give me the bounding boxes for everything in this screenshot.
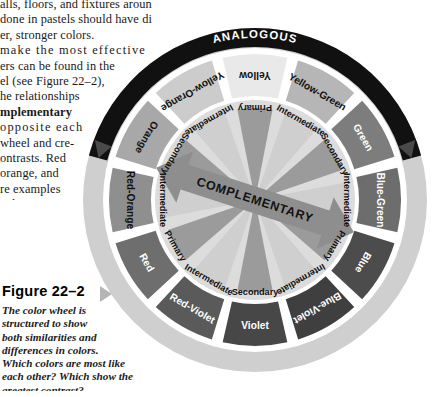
tier-label: Secondary	[232, 287, 279, 297]
hue-label: Yellow	[239, 70, 271, 81]
tier-label: Primary	[237, 103, 272, 113]
tier-label: Intermediate	[158, 173, 168, 227]
hue-label: Red-Orange	[125, 171, 136, 230]
hue-label: Blue-Green	[375, 173, 386, 228]
body-text-line: alls, floors, and fixtures around them.	[0, 0, 152, 12]
color-wheel-svg: COMPLEMENTARY YellowPrimaryYellow-GreenI…	[83, 28, 427, 397]
hue-label: Violet	[241, 320, 269, 331]
tier-label: Intermediate	[342, 173, 352, 227]
color-wheel-figure: COMPLEMENTARY YellowPrimaryYellow-GreenI…	[83, 28, 427, 397]
page-bottom-margin	[0, 391, 446, 397]
body-text-line: done in pastels should have dis-	[0, 12, 152, 27]
